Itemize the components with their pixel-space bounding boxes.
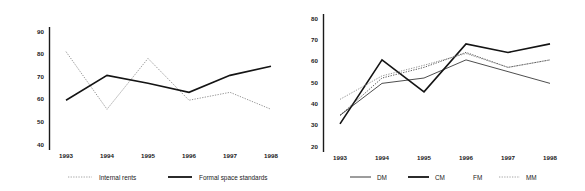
left-ytick-40: 40 [37, 141, 44, 148]
left-legend-label-formal-space-standards: Formal space standards [199, 174, 268, 182]
left-xtick-1994: 1994 [100, 152, 114, 159]
left-chart-panel: 90 80 70 60 50 40 1993 1994 1995 1996 19… [0, 0, 293, 191]
left-ytick-50: 50 [37, 118, 44, 125]
right-ytick-60: 60 [311, 57, 318, 64]
right-ytick-40: 40 [311, 100, 318, 107]
right-legend: DM CM FM MM [350, 174, 537, 181]
left-ytick-90: 90 [37, 28, 44, 35]
right-ytick-80: 80 [311, 15, 318, 22]
left-xtick-1993: 1993 [59, 152, 73, 159]
right-xtick-1995: 1995 [417, 154, 431, 161]
left-chart-svg: 90 80 70 60 50 40 1993 1994 1995 1996 19… [0, 0, 293, 191]
right-ytick-50: 50 [311, 79, 318, 86]
left-xtick-1997: 1997 [223, 152, 237, 159]
left-ytick-80: 80 [37, 50, 44, 57]
left-series-internal-rents [66, 52, 271, 110]
right-xtick-1994: 1994 [375, 154, 389, 161]
left-ytick-60: 60 [37, 95, 44, 102]
right-legend-label-cm: CM [435, 174, 445, 181]
right-chart-panel: 80 70 60 50 40 30 20 1993 1994 1995 1996… [293, 0, 585, 191]
left-xtick-1998: 1998 [264, 152, 278, 159]
right-series-fm [340, 52, 550, 115]
right-xtick-1997: 1997 [501, 154, 515, 161]
right-ytick-20: 20 [311, 143, 318, 150]
two-panel-line-chart-figure: 90 80 70 60 50 40 1993 1994 1995 1996 19… [0, 0, 585, 191]
left-xtick-1996: 1996 [182, 152, 196, 159]
right-ytick-70: 70 [311, 36, 318, 43]
right-xtick-1998: 1998 [543, 154, 557, 161]
right-xtick-1993: 1993 [333, 154, 347, 161]
left-xtick-1995: 1995 [141, 152, 155, 159]
right-ytick-30: 30 [311, 121, 318, 128]
right-legend-label-dm: DM [377, 174, 387, 181]
right-xtick-1996: 1996 [459, 154, 473, 161]
right-legend-label-mm: MM [526, 174, 537, 181]
left-legend: Internal rents Formal space standards [68, 174, 268, 182]
right-legend-label-fm: FM [473, 174, 482, 181]
right-chart-svg: 80 70 60 50 40 30 20 1993 1994 1995 1996… [293, 0, 585, 191]
left-ytick-70: 70 [37, 73, 44, 80]
left-legend-label-internal-rents: Internal rents [99, 174, 136, 181]
right-series-cm [340, 44, 550, 124]
